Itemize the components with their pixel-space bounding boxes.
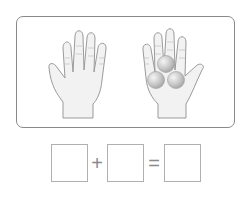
ball-icon (168, 72, 185, 89)
operand-2-box[interactable] (107, 144, 144, 182)
plus-sign: + (90, 152, 104, 174)
equals-sign: = (147, 152, 161, 174)
result-box[interactable] (164, 144, 201, 182)
ball-icon (148, 72, 165, 89)
operand-1-box[interactable] (51, 144, 88, 182)
ball-icon (158, 56, 175, 73)
left-hand-icon (47, 28, 109, 120)
right-hand-icon (140, 28, 206, 120)
